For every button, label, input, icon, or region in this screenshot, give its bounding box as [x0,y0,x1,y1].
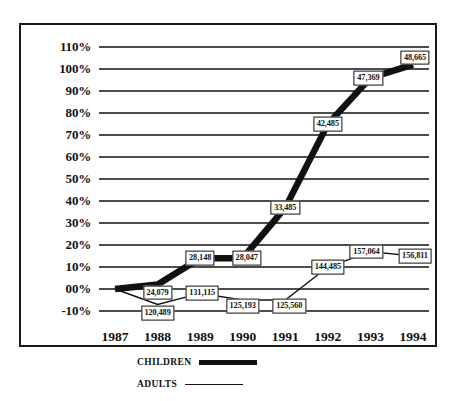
y-axis-tick-label: -10% [19,303,91,319]
x-axis-tick-label: 1987 [102,329,129,345]
data-point-label: 156,811 [399,249,432,264]
y-axis-tick-label: 50% [19,171,91,187]
x-axis-tick-label: 1991 [272,329,299,345]
legend-swatch-children-icon [199,360,257,365]
y-axis-tick-label: 60% [19,149,91,165]
data-point-label: 33,485 [271,200,300,215]
legend-item-children: CHILDREN [137,357,257,367]
legend-label-adults: ADULTS [137,379,177,389]
chart-container: 110%100%90%80%70%60%50%40%30%20%10%00%-1… [0,0,456,401]
x-axis-tick-label: 1992 [314,329,341,345]
data-point-label: 131,115 [186,286,219,301]
y-axis-tick-label: 90% [19,83,91,99]
legend-swatch-adults-icon [185,384,243,385]
x-axis-tick-label: 1988 [144,329,171,345]
x-axis-tick-label: 1989 [187,329,214,345]
y-axis-tick-label: 40% [19,193,91,209]
data-point-label: 125,193 [226,299,259,314]
plot-area: 110%100%90%80%70%60%50%40%30%20%10%00%-1… [19,23,437,347]
y-axis-tick-label: 20% [19,237,91,253]
data-point-label: 42,485 [313,117,342,132]
data-point-label: 28,148 [186,251,215,266]
data-point-label: 157,064 [350,244,383,259]
data-point-label: 48,665 [400,50,429,65]
data-point-label: 28,047 [232,251,261,266]
data-point-label: 144,485 [311,260,344,275]
data-point-label: 47,369 [354,70,383,85]
x-axis-tick-label: 1993 [357,329,384,345]
x-axis-tick-label: 1990 [229,329,256,345]
data-point-label: 125,560 [273,299,306,314]
data-point-label: 120,489 [141,306,174,321]
y-axis-tick-label: 80% [19,105,91,121]
legend-label-children: CHILDREN [137,357,191,367]
legend-item-adults: ADULTS [137,379,243,389]
y-axis-tick-label: 70% [19,127,91,143]
data-point-label: 24,079 [143,285,172,300]
y-axis-tick-label: 30% [19,215,91,231]
x-axis-tick-label: 1994 [400,329,427,345]
y-axis-tick-label: 00% [19,281,91,297]
y-axis-tick-label: 100% [19,61,91,77]
y-axis-tick-label: 10% [19,259,91,275]
y-axis-tick-label: 110% [19,39,91,55]
